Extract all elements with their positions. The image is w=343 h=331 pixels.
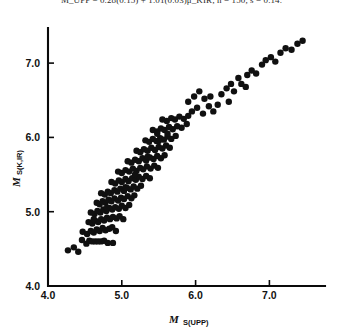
data-point — [184, 121, 190, 127]
data-point — [272, 58, 278, 64]
data-point — [235, 75, 241, 81]
x-axis-title: M S(UPP) — [168, 313, 209, 327]
data-point — [185, 99, 191, 105]
data-point — [231, 88, 237, 94]
data-point — [147, 175, 153, 181]
data-point — [288, 47, 294, 53]
data-point — [164, 130, 170, 136]
figure-container: M_UPP = 0.28(0.15) + 1.01(0.03)μ_KIR; n … — [0, 0, 343, 331]
data-point — [277, 50, 283, 56]
y-tick-label: 7.0 — [25, 57, 40, 69]
data-point — [138, 183, 144, 189]
data-point — [196, 88, 202, 94]
data-point — [206, 103, 212, 109]
scatter-plot: 4.05.06.07.0 4.05.06.07.0 M S(UPP) M S(K… — [0, 0, 343, 331]
data-point — [167, 145, 173, 151]
data-point — [194, 104, 200, 110]
data-point — [126, 202, 132, 208]
x-axis-tick-labels: 4.05.06.07.0 — [41, 289, 277, 301]
x-tick-label: 7.0 — [262, 289, 277, 301]
data-point — [243, 84, 249, 90]
svg-text:M: M — [10, 176, 22, 188]
x-tick-label: 5.0 — [114, 289, 129, 301]
x-tick-label: 4.0 — [41, 289, 56, 301]
y-tick-label: 4.0 — [25, 280, 40, 292]
data-point — [215, 102, 221, 108]
data-point — [132, 171, 138, 177]
data-point — [282, 45, 288, 51]
data-point — [120, 216, 126, 222]
data-point — [210, 108, 216, 114]
data-point — [161, 152, 167, 158]
plot-axes — [48, 28, 325, 286]
data-point — [155, 165, 161, 171]
svg-text:M: M — [168, 313, 180, 325]
data-point — [154, 130, 160, 136]
data-point — [156, 138, 162, 144]
data-point — [200, 110, 206, 116]
data-point — [191, 93, 197, 99]
data-point — [122, 184, 128, 190]
data-points — [65, 38, 306, 255]
data-point — [207, 93, 213, 99]
data-point — [226, 99, 232, 105]
data-point — [65, 247, 71, 253]
data-point — [218, 91, 224, 97]
y-tick-label: 6.0 — [25, 131, 40, 143]
data-point — [113, 228, 119, 234]
data-point — [201, 96, 207, 102]
y-axis-tick-labels: 4.05.06.07.0 — [25, 57, 40, 292]
data-point — [144, 154, 150, 160]
data-point — [131, 192, 137, 198]
data-point — [91, 216, 97, 222]
data-point — [178, 125, 184, 131]
data-point — [75, 249, 81, 255]
data-point — [299, 38, 305, 44]
svg-text:S(UPP): S(UPP) — [183, 318, 209, 327]
svg-text:S(K,IR): S(K,IR) — [15, 150, 24, 176]
x-tick-label: 6.0 — [188, 289, 203, 301]
data-point — [253, 70, 259, 76]
y-axis-title: M S(K,IR) — [10, 150, 24, 188]
data-point — [172, 133, 178, 139]
data-point — [189, 108, 195, 114]
y-tick-label: 5.0 — [25, 206, 40, 218]
data-point — [110, 240, 116, 246]
data-point — [228, 81, 234, 87]
data-point — [104, 205, 110, 211]
